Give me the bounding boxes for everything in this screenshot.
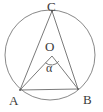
segment-ab <box>20 89 78 90</box>
angle-label-alpha: α <box>46 62 52 74</box>
vertex-dot-a <box>19 89 21 91</box>
segment-ob <box>52 56 78 89</box>
segment-cb <box>52 11 78 89</box>
circumscribed-circle <box>5 10 95 100</box>
center-label-o: O <box>45 40 54 53</box>
vertex-dot-b <box>77 88 79 90</box>
vertex-label-a: A <box>9 94 18 107</box>
vertex-label-c: C <box>47 0 56 13</box>
geometry-figure: C A B O α <box>0 0 103 112</box>
vertex-label-b: B <box>83 93 92 106</box>
